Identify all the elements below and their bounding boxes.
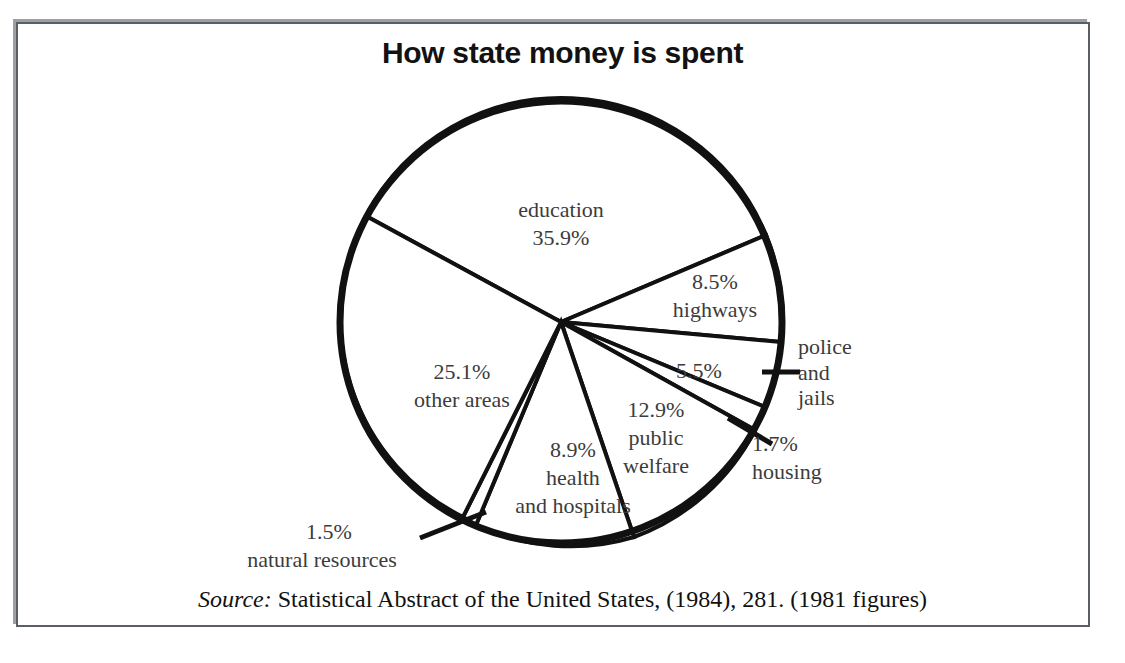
slice-label-natural-resources: 1.5% natural resources <box>222 518 422 574</box>
slice-label-other-areas-name: other areas <box>377 386 547 414</box>
slice-label-housing-value: 1.7% <box>752 430 872 458</box>
slice-label-health-and-hospitals-name: health and hospitals <box>483 464 663 520</box>
slice-label-highways: 8.5% highways <box>645 268 785 324</box>
slice-label-education-value: 35.9% <box>466 224 656 252</box>
slice-label-police-and-jails-name: police and jails <box>798 334 918 411</box>
pie-chart <box>0 0 1125 663</box>
slice-label-police-and-jails-value: 5.5% <box>664 357 734 385</box>
source-label: Source: <box>198 586 272 612</box>
slice-label-police-and-jails: police and jails <box>798 334 918 411</box>
slice-label-highways-name: highways <box>645 296 785 324</box>
slice-label-education: education 35.9% <box>466 196 656 252</box>
slice-label-housing: 1.7% housing <box>752 430 872 486</box>
slice-label-education-name: education <box>466 196 656 224</box>
slice-label-health-and-hospitals: 8.9% health and hospitals <box>483 436 663 520</box>
slice-label-natural-resources-name: natural resources <box>222 546 422 574</box>
slice-label-health-and-hospitals-value: 8.9% <box>483 436 663 464</box>
slice-label-other-areas-value: 25.1% <box>377 358 547 386</box>
source-text: Statistical Abstract of the United State… <box>278 586 927 612</box>
slice-label-public-welfare-value: 12.9% <box>596 396 716 424</box>
figure-how-state-money-is-spent: How state money is spent education 35.9%… <box>0 0 1125 663</box>
slice-label-other-areas: 25.1% other areas <box>377 358 547 414</box>
slice-label-natural-resources-value: 1.5% <box>236 518 422 546</box>
slice-label-highways-value: 8.5% <box>645 268 785 296</box>
source-line: Source: Statistical Abstract of the Unit… <box>0 586 1125 613</box>
slice-label-housing-name: housing <box>752 458 872 486</box>
